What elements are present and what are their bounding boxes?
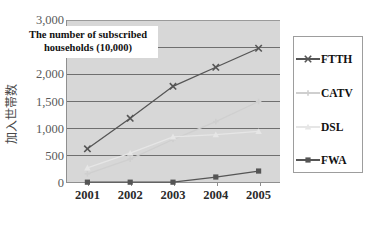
data-point-plus [213, 119, 219, 125]
data-point-square [256, 168, 261, 173]
data-point-x [213, 64, 219, 70]
legend-marker-triangle-icon [295, 120, 321, 134]
y-axis-tick-label: 2,000 [18, 68, 64, 80]
legend-item-fwa[interactable]: FWA [294, 150, 364, 170]
legend-item-dsl[interactable]: DSL [294, 117, 364, 137]
legend-item-catv[interactable]: CATV [294, 83, 364, 103]
legend-marker-x-icon [295, 52, 321, 66]
data-point-x [84, 146, 90, 152]
chart-figure: 加入世帯数 05001,0001,5002,0002,5003,000 2001… [0, 0, 369, 232]
data-point-x [170, 83, 176, 89]
data-point-square [128, 180, 133, 185]
legend-label: FTTH [321, 53, 352, 65]
data-point-triangle [305, 124, 311, 130]
y-axis-tick-label: 0 [18, 177, 64, 189]
data-point-plus [127, 156, 133, 162]
chart-title: The number of subscribed households (10,… [18, 26, 158, 58]
legend-label: DSL [321, 121, 343, 133]
data-point-x [127, 115, 133, 121]
y-axis-tick-label: 3,000 [18, 14, 64, 26]
data-point-square [213, 174, 218, 179]
legend-label: CATV [321, 87, 353, 99]
legend-marker-square-icon [295, 153, 321, 167]
x-axis-tick-label: 2004 [203, 188, 228, 203]
chart-legend: FTTHCATVDSLFWA [293, 36, 363, 173]
legend-marker-plus-icon [295, 86, 321, 100]
x-axis-tick-labels: 20012002200320042005 [66, 186, 280, 206]
data-point-square [305, 157, 310, 162]
data-point-plus [305, 90, 311, 96]
data-point-plus [85, 171, 91, 177]
data-point-plus [256, 99, 262, 105]
data-point-square [85, 180, 90, 185]
y-axis-tick-label: 1,000 [18, 123, 64, 135]
data-point-x [255, 45, 261, 51]
legend-item-ftth[interactable]: FTTH [294, 49, 364, 69]
x-axis-tick-label: 2003 [161, 188, 186, 203]
x-axis-tick-label: 2002 [118, 188, 143, 203]
y-axis-tick-label: 1,500 [18, 96, 64, 108]
data-point-square [170, 180, 175, 185]
y-axis-tick-label: 500 [18, 150, 64, 162]
x-axis-tick-label: 2001 [75, 188, 100, 203]
legend-label: FWA [321, 154, 347, 166]
data-point-x [305, 56, 311, 62]
x-axis-tick-label: 2005 [246, 188, 271, 203]
